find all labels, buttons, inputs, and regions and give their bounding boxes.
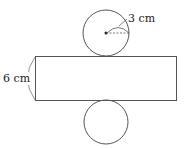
height-label: 6 cm [3,72,31,85]
lateral-rectangle [36,57,177,101]
bottom-circle [84,100,128,144]
cylinder-net-diagram: 3 cm 6 cm [0,0,185,148]
radius-bracket [107,28,129,34]
radius-label: 3 cm [128,12,156,25]
radius-leader [119,19,127,26]
